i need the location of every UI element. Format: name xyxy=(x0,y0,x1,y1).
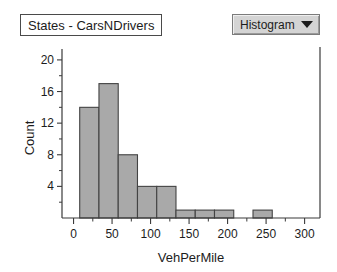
y-axis-title: Count xyxy=(22,120,37,155)
y-tick-label: 4 xyxy=(47,179,54,193)
chevron-down-icon xyxy=(301,21,313,28)
bars-group xyxy=(80,84,273,218)
histogram-window: 05010015020025030048121620 VehPerMile Co… xyxy=(0,0,337,272)
chart-title-label: States - CarsNDrivers xyxy=(28,19,154,32)
y-tick-label: 20 xyxy=(41,53,55,67)
histogram-svg: 05010015020025030048121620 VehPerMile Co… xyxy=(0,0,337,272)
histogram-bar xyxy=(118,155,137,218)
histogram-bar xyxy=(214,210,233,218)
chart-type-label: Histogram xyxy=(240,19,295,31)
x-axis-title: VehPerMile xyxy=(158,250,224,265)
histogram-bar xyxy=(176,210,195,218)
x-tick-label: 50 xyxy=(105,227,119,241)
y-tick-label: 8 xyxy=(47,148,54,162)
y-tick-label: 16 xyxy=(41,85,55,99)
histogram-bar xyxy=(137,186,156,218)
histogram-bar xyxy=(99,84,118,218)
x-tick-label: 250 xyxy=(256,227,276,241)
histogram-bar xyxy=(157,186,176,218)
chart-type-dropdown[interactable]: Histogram xyxy=(232,14,320,35)
histogram-bar xyxy=(80,107,99,218)
histogram-bar xyxy=(195,210,214,218)
histogram-bar xyxy=(253,210,272,218)
y-tick-label: 12 xyxy=(41,116,55,130)
x-tick-label: 200 xyxy=(218,227,238,241)
x-tick-label: 100 xyxy=(141,227,161,241)
x-tick-label: 300 xyxy=(295,227,315,241)
x-tick-label: 150 xyxy=(179,227,199,241)
chart-title-box: States - CarsNDrivers xyxy=(20,14,162,36)
x-tick-label: 0 xyxy=(70,227,77,241)
histogram-plot: 05010015020025030048121620 VehPerMile Co… xyxy=(0,0,337,272)
